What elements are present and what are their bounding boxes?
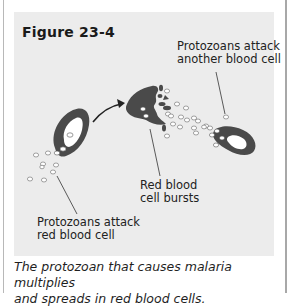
label-protozoans-attack-another-cell: Protozoans attack another blood cell <box>177 40 281 66</box>
label-protozoans-attack-red-blood-cell: Protozoans attack red blood cell <box>37 216 140 242</box>
label-line: cell bursts <box>140 192 199 205</box>
caption-line: and spreads in red blood cells. <box>14 291 286 307</box>
leader-line-another-cell <box>216 72 225 114</box>
label-line: red blood cell <box>37 229 140 242</box>
arrow-icon <box>93 99 125 122</box>
label-line: another blood cell <box>177 53 281 66</box>
leader-line-bursts <box>150 129 160 176</box>
protozoans-released <box>164 89 212 138</box>
figure-caption: The protozoan that causes malaria multip… <box>14 259 286 307</box>
red-blood-cell-left <box>54 108 90 156</box>
caption-line: The protozoan that causes malaria multip… <box>14 259 286 291</box>
label-red-blood-cell-bursts: Red blood cell bursts <box>140 179 199 205</box>
leader-line-attack <box>57 176 77 214</box>
red-blood-cell-right <box>209 115 255 155</box>
protozoans-left <box>27 151 58 182</box>
